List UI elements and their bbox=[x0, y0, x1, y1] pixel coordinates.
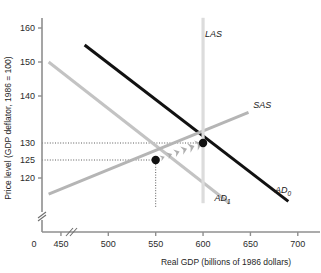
axis-titles-layer: Real GDP (billions of 1986 dollars)Price… bbox=[3, 56, 291, 267]
arrow-chevron-3 bbox=[173, 149, 179, 157]
y-axis-title: Price level (GDP deflator, 1986 = 100) bbox=[3, 56, 13, 199]
arrow-chevron-4 bbox=[180, 146, 187, 154]
y-tick-label-140: 140 bbox=[20, 91, 35, 101]
curve-labels-layer: AD0AD1SASLAS bbox=[205, 29, 292, 205]
x-tick-label-500: 500 bbox=[101, 239, 116, 249]
x-tick-label-650: 650 bbox=[243, 239, 258, 249]
point-initial-equilibrium bbox=[199, 139, 207, 147]
curve-label-LAS: LAS bbox=[205, 29, 222, 39]
annotation-arrow-layer bbox=[159, 141, 202, 162]
y-tick-label-130: 130 bbox=[20, 138, 35, 148]
curve-label-AD0: AD0 bbox=[274, 185, 292, 197]
y-break-slash-1 bbox=[38, 212, 46, 218]
y-tick-label-120: 120 bbox=[20, 173, 35, 183]
axes-layer bbox=[38, 18, 320, 236]
curve-label-text: LAS bbox=[205, 29, 222, 39]
x-tick-label-450: 450 bbox=[53, 239, 68, 249]
x-tick-label-600: 600 bbox=[196, 239, 211, 249]
curve-label-SAS: SAS bbox=[253, 100, 271, 110]
x-tick-label-700: 700 bbox=[290, 239, 305, 249]
curve-label-text: AD bbox=[213, 193, 227, 203]
arrow-chevron-5 bbox=[187, 143, 194, 152]
curve-aggregate-demand bbox=[85, 45, 289, 201]
annotation-adjustment-arrow bbox=[159, 141, 202, 162]
x-axis-title: Real GDP (billions of 1986 dollars) bbox=[161, 257, 291, 267]
curve-short-run-aggregate-supply bbox=[49, 112, 249, 194]
curve-label-subscript: 1 bbox=[227, 198, 231, 205]
y-tick-label-125: 125 bbox=[20, 155, 35, 165]
x-tick-label-550: 550 bbox=[148, 239, 163, 249]
curve-label-AD1: AD1 bbox=[213, 193, 231, 205]
arrow-chevron-1 bbox=[159, 155, 164, 161]
tick-labels-layer: 1201251301401501604505005506006507000 bbox=[20, 23, 305, 249]
x-origin-label: 0 bbox=[31, 239, 36, 249]
y-tick-label-150: 150 bbox=[20, 57, 35, 67]
y-axis-break bbox=[38, 212, 46, 221]
point-new-equilibrium bbox=[151, 156, 159, 164]
curve-label-subscript: 0 bbox=[288, 190, 292, 197]
y-tick-label-160: 160 bbox=[20, 23, 35, 33]
reference-lines-layer bbox=[42, 143, 203, 207]
curve-label-text: AD bbox=[274, 185, 288, 195]
curve-label-text: SAS bbox=[253, 100, 271, 110]
chart-canvas: 1201251301401501604505005506006507000 AD… bbox=[0, 0, 321, 273]
ad-as-chart: 1201251301401501604505005506006507000 AD… bbox=[0, 0, 321, 273]
curves-layer bbox=[49, 18, 289, 203]
